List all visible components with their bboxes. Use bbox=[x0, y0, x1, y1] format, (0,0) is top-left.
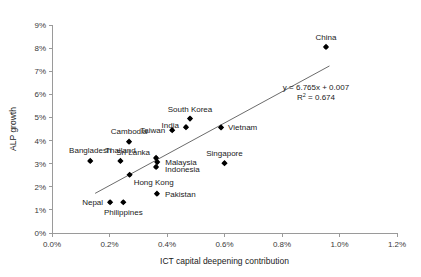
y-tick-label: 2% bbox=[34, 183, 46, 192]
point-label-philippines: Philippines bbox=[104, 208, 143, 217]
y-tick-label: 4% bbox=[34, 137, 46, 146]
x-tick-label: 0.8% bbox=[273, 240, 291, 249]
y-tick-label: 1% bbox=[34, 206, 46, 215]
data-point-marker bbox=[221, 160, 227, 166]
data-point-core bbox=[223, 161, 227, 165]
y-tick-label: 8% bbox=[34, 44, 46, 53]
x-tick-label: 0.0% bbox=[43, 240, 61, 249]
point-label-vietnam: Vietnam bbox=[228, 123, 258, 132]
data-point-core bbox=[184, 125, 188, 129]
data-point-core bbox=[155, 192, 159, 196]
point-label-cambodia: Cambodia bbox=[111, 127, 148, 136]
trendline-equation-label: y = 6.765x + 0.007 bbox=[283, 83, 350, 92]
y-tick-label: 3% bbox=[34, 160, 46, 169]
data-point-marker bbox=[117, 158, 123, 164]
y-tick-label: 7% bbox=[34, 67, 46, 76]
data-point-core bbox=[121, 200, 125, 204]
point-label-indonesia: Indonesia bbox=[165, 165, 200, 174]
data-point-marker bbox=[126, 139, 132, 145]
x-tick-label: 0.4% bbox=[158, 240, 176, 249]
x-axis-title: ICT capital deepening contribution bbox=[160, 256, 289, 266]
y-tick-label: 5% bbox=[34, 113, 46, 122]
point-label-hong-kong: Hong Kong bbox=[134, 178, 174, 187]
x-tick-label: 1.2% bbox=[388, 240, 406, 249]
data-point-marker bbox=[218, 124, 224, 130]
x-tick-label: 0.2% bbox=[100, 240, 118, 249]
x-tick-label: 0.6% bbox=[215, 240, 233, 249]
data-point-core bbox=[170, 128, 174, 132]
trendline-r-squared-label: R2 = 0.674 bbox=[297, 92, 336, 102]
data-point-marker bbox=[127, 172, 133, 178]
data-point-marker bbox=[187, 116, 193, 122]
data-point-core bbox=[118, 159, 122, 163]
point-label-south-korea: South Korea bbox=[168, 105, 213, 114]
data-point-core bbox=[127, 140, 131, 144]
data-point-core bbox=[128, 173, 132, 177]
data-point-core bbox=[324, 45, 328, 49]
point-label-nepal: Nepal bbox=[82, 198, 103, 207]
point-label-china: China bbox=[316, 33, 337, 42]
data-point-core bbox=[154, 165, 158, 169]
data-point-marker bbox=[107, 199, 113, 205]
data-point-core bbox=[88, 159, 92, 163]
point-label-thailand: Thailand bbox=[105, 146, 136, 155]
chart-plot-area: 0%1%2%3%4%5%6%7%8%9%0.0%0.2%0.4%0.6%0.8%… bbox=[0, 0, 421, 277]
data-point-marker bbox=[183, 124, 189, 130]
point-label-pakistan: Pakistan bbox=[165, 190, 196, 199]
x-tick-label: 1.0% bbox=[330, 240, 348, 249]
y-axis-title: ALP growth bbox=[8, 107, 18, 151]
y-tick-label: 6% bbox=[34, 90, 46, 99]
data-point-core bbox=[188, 117, 192, 121]
scatter-chart-figure: 0%1%2%3%4%5%6%7%8%9%0.0%0.2%0.4%0.6%0.8%… bbox=[0, 0, 421, 277]
data-point-marker bbox=[323, 44, 329, 50]
data-point-marker bbox=[120, 199, 126, 205]
data-point-core bbox=[219, 125, 223, 129]
data-point-marker bbox=[87, 158, 93, 164]
data-point-core bbox=[155, 160, 159, 164]
data-point-marker bbox=[153, 164, 159, 170]
y-tick-label: 9% bbox=[34, 21, 46, 30]
data-point-marker bbox=[154, 191, 160, 197]
y-tick-label: 0% bbox=[34, 229, 46, 238]
data-point-core bbox=[108, 200, 112, 204]
point-label-singapore: Singapore bbox=[206, 149, 243, 158]
